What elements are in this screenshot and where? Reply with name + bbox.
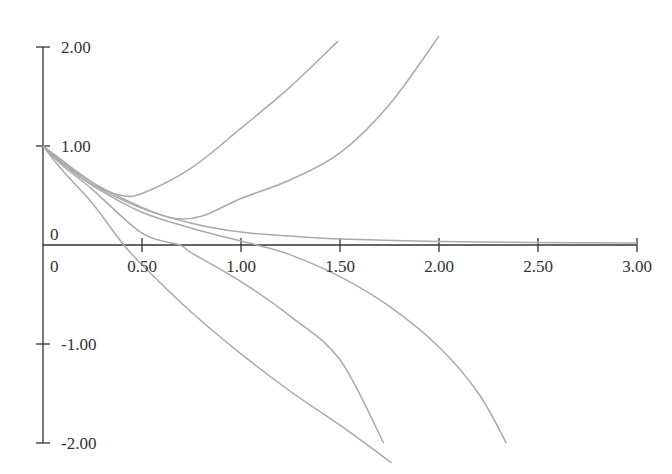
- x-tick-label-zero: 0: [50, 257, 59, 276]
- axes: [36, 47, 637, 443]
- x-tick-label: 1.50: [325, 257, 355, 276]
- y-tick-label-zero: 0: [50, 225, 59, 244]
- x-tick-label: 3.00: [622, 257, 652, 276]
- y-tick-label: -1.00: [61, 335, 96, 354]
- x-tick-label: 0.50: [127, 257, 157, 276]
- x-tick-label: 1.00: [226, 257, 256, 276]
- series-curve-4: [43, 146, 506, 443]
- y-tick-label: 2.00: [61, 38, 91, 57]
- series-curve-6: [43, 146, 392, 463]
- series-curve-3: [43, 146, 637, 243]
- chart-canvas: 2.001.000-1.00-2.0000.501.001.502.002.50…: [0, 0, 672, 474]
- series-curve-5: [43, 146, 384, 443]
- x-tick-label: 2.00: [424, 257, 454, 276]
- series-curve-1: [43, 41, 338, 196]
- y-tick-label: 1.00: [61, 137, 91, 156]
- y-tick-label: -2.00: [61, 434, 96, 453]
- x-tick-label: 2.50: [523, 257, 553, 276]
